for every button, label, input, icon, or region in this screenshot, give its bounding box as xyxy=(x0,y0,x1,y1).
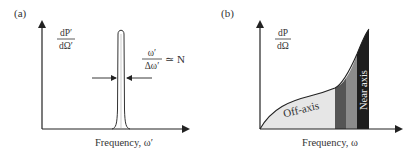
x-axis-label: Frequency, ω′ xyxy=(95,137,153,148)
panel-b: (b) dP dΩ Off-axis Near axis Frequency, … xyxy=(221,7,401,148)
x-axis-label: Frequency, ω xyxy=(302,137,358,148)
panel-a: (a) dP′ dΩ′ ω′ Δω′ ≃ N Frequency, ω′ xyxy=(14,7,188,148)
annotation-denominator: Δω′ xyxy=(145,61,159,71)
annotation-relation: ≃ N xyxy=(165,53,185,65)
figure: (a) dP′ dΩ′ ω′ Δω′ ≃ N Frequency, ω′ (b)… xyxy=(0,0,416,152)
annotation-numerator: ω′ xyxy=(148,48,156,58)
y-axis-label-numerator: dP′ xyxy=(60,28,72,38)
near-axis-label: Near axis xyxy=(358,70,369,110)
y-axis-label-denominator: dΩ xyxy=(277,41,289,51)
panel-b-label: (b) xyxy=(221,7,234,20)
y-axis-label-denominator: dΩ′ xyxy=(59,41,73,51)
panel-a-label: (a) xyxy=(14,7,27,20)
band-dark-gray xyxy=(335,78,346,129)
y-axis-label-numerator: dP xyxy=(278,28,288,38)
